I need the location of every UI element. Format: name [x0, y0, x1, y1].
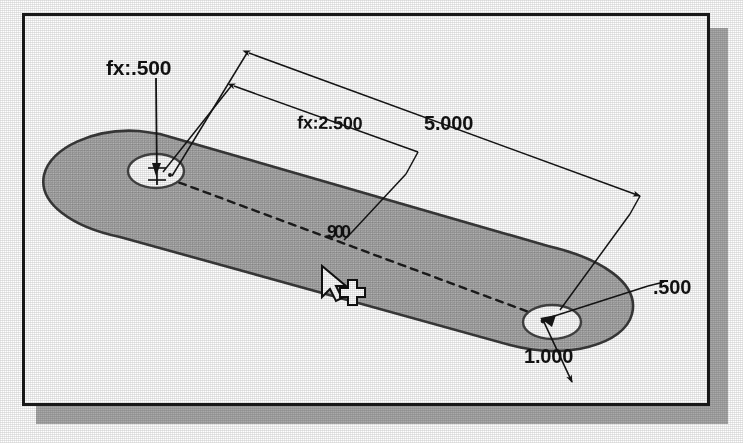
- dimension-label-hole-right-diameter[interactable]: .500: [653, 276, 691, 299]
- dimension-label-hole-left-diameter[interactable]: fx:.500: [106, 56, 171, 80]
- dimension-label-overall-length[interactable]: 5.000: [424, 112, 473, 135]
- dimension-label-hole-spacing[interactable]: fx:2.500: [297, 112, 363, 134]
- dimension-label-edge-distance[interactable]: 1.000: [524, 345, 573, 368]
- ext-line-length-right: [630, 196, 640, 214]
- cad-screenshot-stage: fx:.500 fx:2.500 5.000 .900 .500 1.000: [0, 0, 743, 443]
- dimension-label-offset[interactable]: .900: [325, 222, 348, 243]
- ext-line-spacing-right: [406, 152, 418, 174]
- hole-left-center-point: [168, 173, 172, 177]
